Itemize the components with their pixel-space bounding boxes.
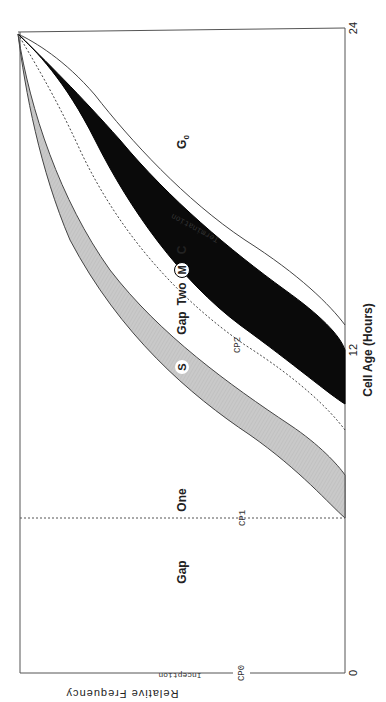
inception-annotation: Inception [158, 671, 201, 680]
gap-one-label-gap: Gap [175, 560, 189, 583]
cell-cycle-diagram: 24 12 0 Cell Age (Hours) Relative Freque… [0, 0, 386, 702]
gap-two-label-two: Two [175, 282, 189, 305]
cp2-label: CP2 [233, 337, 243, 353]
cell-age-axis-title: Cell Age (Hours) [361, 303, 375, 397]
cp0-label: CP0 [237, 665, 247, 681]
g0-subscript: 0 [182, 135, 191, 140]
relative-frequency-axis-title: Relative Frequency [66, 688, 179, 700]
cp1-label: CP1 [238, 510, 248, 526]
gap-one-label-one: One [175, 488, 189, 512]
tick-24: 24 [347, 22, 359, 34]
top-frame-line [18, 28, 345, 32]
tick-12: 12 [347, 344, 359, 356]
s-phase-label: S [176, 363, 188, 370]
tick-0: 0 [347, 670, 359, 676]
m-phase-label: M [176, 265, 188, 274]
g0-label: G0 [175, 135, 191, 149]
termination-curve [18, 34, 345, 325]
c-phase-label: C [175, 245, 189, 254]
gap-two-label-gap: Gap [175, 311, 189, 334]
